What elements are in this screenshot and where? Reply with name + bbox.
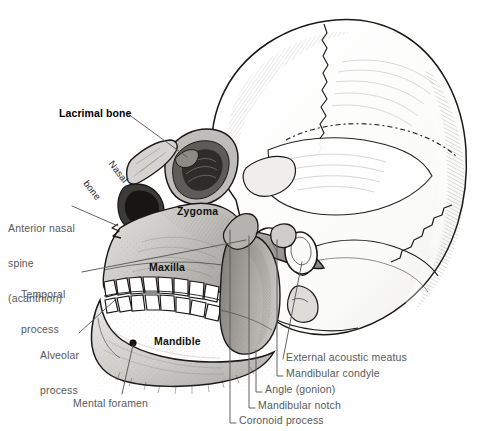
label-temporal-process-line1: Temporal bbox=[21, 289, 65, 301]
label-mandibular-condyle: Mandibular condyle bbox=[286, 368, 380, 380]
label-coronoid-process: Coronoid process bbox=[239, 415, 324, 427]
label-maxilla: Maxilla bbox=[149, 262, 185, 274]
label-angle-gonion: Angle (gonion) bbox=[265, 384, 335, 396]
label-nasal-bone-line2: bone bbox=[81, 178, 105, 204]
label-alveolar-process-line1: Alveolar bbox=[40, 350, 79, 362]
label-mental-foramen: Mental foramen bbox=[73, 398, 148, 410]
label-mandible: Mandible bbox=[154, 336, 201, 348]
label-nasal-bone-line1: Nasal bbox=[106, 159, 130, 185]
label-lacrimal-bone: Lacrimal bone bbox=[59, 108, 132, 120]
label-zygoma: Zygoma bbox=[177, 206, 218, 218]
label-anterior-nasal-spine-line1: Anterior nasal bbox=[8, 223, 75, 235]
label-mandibular-notch: Mandibular notch bbox=[258, 400, 341, 412]
skull-anatomy-figure: Lacrimal bone Anterior nasal spine (acan… bbox=[0, 0, 486, 431]
label-alveolar-process-line2: process bbox=[40, 385, 79, 397]
label-external-acoustic-meatus: External acoustic meatus bbox=[286, 352, 407, 364]
